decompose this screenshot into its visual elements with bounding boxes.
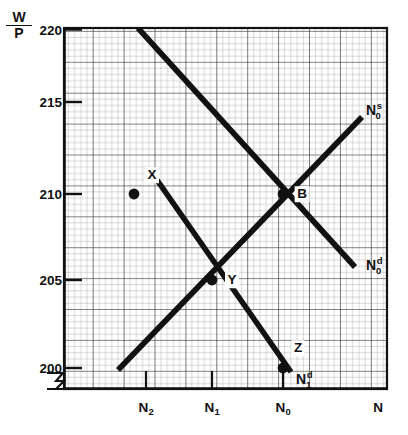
x-tick-label-group: N2 N1 N0 N xyxy=(0,0,408,435)
curve-label-demand-0-sub: 0 xyxy=(376,265,381,276)
curve-label-supply-0-sub: 0 xyxy=(375,110,380,121)
x-tick-label-n1-base: N xyxy=(204,400,214,415)
x-tick-label-n0-sub: 0 xyxy=(286,406,291,417)
point-label-x: X xyxy=(145,167,159,183)
x-axis-title: N xyxy=(373,400,383,415)
point-label-b: B xyxy=(295,186,310,202)
curve-label-demand-1-base: N xyxy=(296,371,306,387)
labor-market-diagram: W P 220 215 210 205 200 N2 N1 N0 N Ns0 N… xyxy=(0,0,408,435)
x-tick-label-n1-sub: 1 xyxy=(215,406,220,417)
x-tick-label-n2-base: N xyxy=(138,400,148,415)
curve-label-demand-0: Nd0 xyxy=(366,258,387,272)
point-label-z: Z xyxy=(291,340,304,356)
curve-label-demand-1-sub: 1 xyxy=(306,379,311,390)
x-tick-label-n0: N0 xyxy=(275,400,290,415)
curve-label-demand-0-base: N xyxy=(366,257,376,273)
x-tick-label-n2: N2 xyxy=(138,400,153,415)
x-tick-label-n0-base: N xyxy=(275,400,285,415)
point-label-y: Y xyxy=(225,272,239,288)
x-tick-label-n2-sub: 2 xyxy=(149,406,154,417)
curve-label-demand-1: Nd1 xyxy=(296,372,317,386)
x-tick-label-n1: N1 xyxy=(204,400,219,415)
curve-label-supply-0: Ns0 xyxy=(366,103,387,117)
